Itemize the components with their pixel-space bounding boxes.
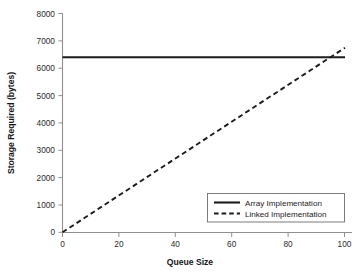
- y-tick-label: 2000: [37, 173, 56, 183]
- y-axis-tick-labels: 8000 7000 6000 5000 4000 3000 2000 1000 …: [37, 9, 56, 238]
- legend-label-array-implementation: Array Implementation: [245, 199, 322, 208]
- x-tick-label: 60: [227, 239, 237, 249]
- line-chart: 8000 7000 6000 5000 4000 3000 2000 1000 …: [0, 0, 358, 275]
- y-tick-label: 0: [50, 227, 55, 237]
- chart-container: 8000 7000 6000 5000 4000 3000 2000 1000 …: [0, 0, 358, 275]
- y-tick-label: 3000: [37, 145, 56, 155]
- x-tick-label: 20: [114, 239, 124, 249]
- x-tick-label: 80: [283, 239, 293, 249]
- y-tick-label: 7000: [37, 36, 56, 46]
- y-axis-title: Storage Required (bytes): [6, 72, 16, 174]
- y-tick-label: 8000: [37, 9, 56, 19]
- y-tick-label: 4000: [37, 118, 56, 128]
- x-tick-label: 40: [171, 239, 181, 249]
- y-tick-label: 1000: [37, 200, 56, 210]
- y-tick-label: 6000: [37, 63, 56, 73]
- x-tick-label: 0: [60, 239, 65, 249]
- chart-legend: Array Implementation Linked Implementati…: [208, 194, 345, 223]
- legend-label-linked-implementation: Linked Implementation: [245, 210, 326, 219]
- y-tick-label: 5000: [37, 91, 56, 101]
- x-axis-title: Queue Size: [167, 257, 214, 267]
- x-tick-label: 100: [338, 239, 352, 249]
